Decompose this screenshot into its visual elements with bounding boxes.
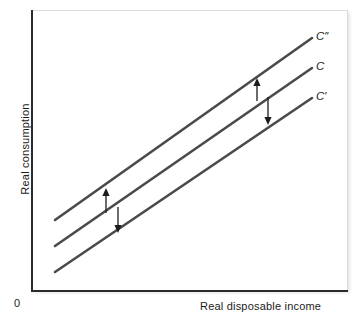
line-c-prime bbox=[55, 98, 312, 272]
shift-up-arrow-right-icon bbox=[253, 78, 260, 101]
x-axis-label: Real disposable income bbox=[200, 300, 321, 312]
x-axis bbox=[31, 290, 348, 292]
consumption-function-shift-chart: C″ C C′ Real consumption Real disposable… bbox=[0, 0, 360, 321]
line-c bbox=[55, 68, 312, 246]
origin-label: 0 bbox=[14, 297, 20, 309]
y-axis-label: Real consumption bbox=[19, 69, 31, 229]
curve-label-c-double-prime: C″ bbox=[316, 30, 328, 42]
chart-lines-and-arrows bbox=[0, 0, 360, 321]
line-c-double-prime bbox=[55, 38, 312, 220]
y-axis bbox=[31, 10, 33, 292]
curve-label-c: C bbox=[316, 60, 324, 72]
curve-label-c-prime: C′ bbox=[316, 90, 326, 102]
